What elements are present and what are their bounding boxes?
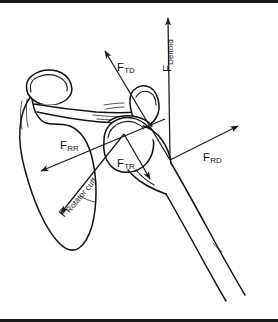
vector-label-ftr-subscript: TR: [124, 162, 135, 171]
vector-label-ftr: FTR: [117, 158, 135, 171]
force-diagram-figure: FTD FDeltoid FRR FTR FRD FRotator cuff: [0, 0, 278, 322]
vector-label-frr: FRR: [60, 140, 79, 153]
vector-label-frd-subscript: RD: [210, 156, 222, 165]
vector-label-fdeltoid: FDeltoid: [162, 39, 175, 72]
humerus-shaft-outline: [166, 163, 245, 301]
vector-label-frd: FRD: [203, 152, 222, 165]
vector-label-ftd: FTD: [117, 62, 135, 75]
vector-label-fdeltoid-symbol: F: [161, 65, 173, 72]
vector-label-fdeltoid-subscript: Deltoid: [166, 39, 175, 65]
vector-label-ftd-subscript: TD: [124, 66, 135, 75]
vector-label-frr-subscript: RR: [67, 144, 79, 153]
shoulder-anatomy-and-vectors-canvas: [0, 0, 278, 322]
